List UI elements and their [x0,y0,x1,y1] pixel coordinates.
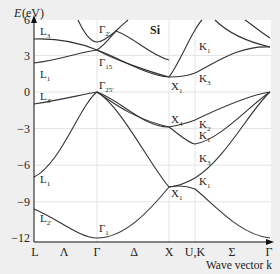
material-label: Si [150,23,161,37]
y-axis-label-E: E [13,6,22,20]
y-tick: 6 [24,13,30,27]
x-axis-label: Wave vector k [206,259,272,271]
y-tick: −3 [17,122,30,136]
x-tick-X: X [165,245,174,259]
x-tick-lambda: Λ [60,245,69,259]
y-tick: −6 [17,158,30,172]
x-tick-delta: Δ [130,245,138,259]
x-tick-gamma: Γ [94,245,101,259]
x-ticks: L Λ Γ Δ X U,K Σ Γ [31,245,272,259]
y-tick: 0 [24,85,30,99]
y-tick: −12 [11,231,30,245]
x-tick-UK: U,K [185,245,206,259]
x-tick-gamma-end: Γ [266,245,273,259]
band-structure-plot: E (eV) 6 3 0 −3 −6 −9 −12 L Λ Γ Δ X U,K … [0,0,280,274]
y-tick: −9 [17,195,30,209]
x-tick-L: L [31,245,38,259]
y-ticks: 6 3 0 −3 −6 −9 −12 [11,13,30,245]
band-structure-figure: E (eV) 6 3 0 −3 −6 −9 −12 L Λ Γ Δ X U,K … [0,0,280,274]
x-tick-sigma: Σ [229,245,236,259]
y-tick: 3 [24,49,30,63]
